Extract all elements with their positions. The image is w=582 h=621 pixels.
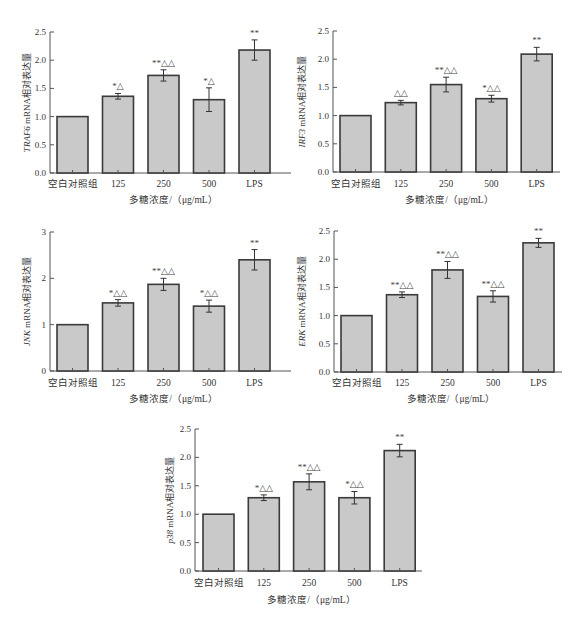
category-label: 500 — [347, 578, 362, 588]
category-label: 250 — [302, 578, 317, 588]
bar — [294, 482, 325, 571]
significance-marker: **△△ — [298, 462, 321, 472]
y-tick-label: 0.0 — [180, 566, 192, 576]
significance-marker: *△△ — [255, 483, 273, 493]
bar — [384, 451, 415, 571]
significance-marker: *△△ — [345, 479, 363, 489]
bar — [203, 514, 234, 571]
bar — [339, 498, 370, 571]
y-tick-label: 0.5 — [180, 538, 192, 548]
y-tick-label: 2.0 — [180, 452, 192, 462]
y-tick-label: 2.5 — [180, 424, 192, 434]
bar — [248, 498, 279, 571]
x-axis-label: 多糖浓度/（μg/mL） — [267, 594, 355, 605]
significance-marker: ** — [395, 432, 405, 442]
y-axis-label: p38 mRNA相对表达量 — [164, 457, 175, 545]
y-tick-label: 1.5 — [180, 481, 192, 491]
category-label: 空白对照组 — [194, 577, 244, 588]
category-label: 125 — [257, 578, 272, 588]
category-label: LPS — [392, 578, 408, 588]
chart-p38: 0.00.51.01.52.02.5空白对照组*△△125**△△250*△△5… — [0, 0, 582, 621]
y-tick-label: 1.0 — [180, 509, 192, 519]
